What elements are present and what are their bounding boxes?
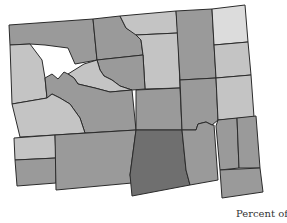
county-natrona (136, 88, 182, 130)
county-converse (180, 78, 218, 130)
county-platte (216, 118, 239, 170)
county-uinta (15, 158, 56, 186)
county-lincoln (14, 135, 56, 160)
county-carbon (130, 130, 190, 196)
county-teton (10, 44, 47, 104)
county-weston (214, 42, 251, 78)
county-laramie (220, 168, 263, 198)
wyoming-county-map (0, 0, 287, 223)
county-crook (212, 5, 248, 45)
county-sweetwater (55, 130, 136, 190)
county-goshen (237, 116, 260, 168)
county-campbell (176, 9, 216, 80)
legend-title: Percent of (236, 208, 287, 219)
county-albany (182, 122, 218, 185)
county-niobrara (216, 75, 254, 120)
